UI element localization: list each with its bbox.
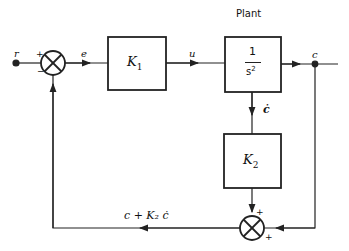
input-sum-minus-sign: − <box>37 66 45 76</box>
c-label: c <box>312 49 318 60</box>
input-sum-plus-sign: + <box>36 49 44 59</box>
k1-sub: 1 <box>137 62 143 72</box>
plant-numerator: 1 <box>249 45 256 58</box>
u-label: u <box>189 48 195 59</box>
feedback-sum-top-sign: + <box>256 207 264 217</box>
r-label: r <box>14 48 19 59</box>
feedback-summing-junction <box>240 216 264 240</box>
diagram-lines <box>0 0 349 251</box>
k2-sub: 2 <box>253 160 259 170</box>
c-feedback-line <box>264 64 315 228</box>
k2-main: K <box>243 152 253 167</box>
c-dot-label: ċ <box>263 103 270 116</box>
input-summing-junction <box>41 51 65 75</box>
feedback-signal-label: c + K₂ ċ <box>124 209 169 222</box>
plant-denominator: s2 <box>246 65 256 77</box>
main-feedback-line <box>53 75 240 228</box>
k2-label: K2 <box>243 152 258 170</box>
plant-fraction-bar <box>245 62 261 63</box>
plant-title: Plant <box>236 8 261 19</box>
block-diagram: Plant r + − e K1 u 1 s2 c ċ K2 + + c + K… <box>0 0 349 251</box>
k1-label: K1 <box>127 54 142 72</box>
e-label: e <box>81 48 87 59</box>
plant-exponent: 2 <box>251 65 255 73</box>
k1-main: K <box>127 54 137 69</box>
feedback-sum-right-sign: + <box>265 232 273 242</box>
